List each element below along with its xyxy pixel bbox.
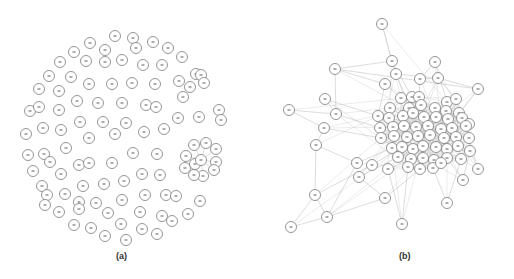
peripheral-node <box>322 212 333 223</box>
node <box>100 231 111 242</box>
node <box>127 78 138 89</box>
node <box>40 200 51 211</box>
peripheral-node <box>391 69 402 80</box>
node <box>199 78 210 89</box>
peripheral-node <box>380 193 391 204</box>
node <box>135 207 146 218</box>
core-node <box>373 111 384 122</box>
node <box>78 181 89 192</box>
cluster-node <box>211 144 222 155</box>
peripheral-node <box>377 19 388 30</box>
edge <box>315 145 316 195</box>
node <box>34 84 45 95</box>
core-node <box>439 133 450 144</box>
peripheral-node <box>433 73 444 84</box>
core-node <box>415 164 426 175</box>
peripheral-node <box>310 190 321 201</box>
core-node <box>436 158 447 169</box>
node <box>81 56 92 67</box>
node <box>119 176 130 187</box>
core-node <box>431 142 442 153</box>
node <box>60 189 71 200</box>
node <box>183 209 194 220</box>
edge <box>291 195 315 227</box>
core-node <box>465 146 476 157</box>
node <box>117 195 128 206</box>
node <box>28 166 39 177</box>
node <box>85 38 96 49</box>
node <box>69 220 80 231</box>
core-node <box>413 131 424 142</box>
node <box>75 117 86 128</box>
core-node <box>451 94 462 105</box>
node <box>107 158 118 169</box>
core-node <box>425 130 436 141</box>
edge <box>438 78 478 89</box>
node <box>214 105 225 116</box>
cluster-node <box>189 140 200 151</box>
node <box>56 169 67 180</box>
core-node <box>456 154 467 165</box>
peripheral-node <box>354 172 365 183</box>
node <box>42 190 53 201</box>
node <box>110 31 121 42</box>
core-node <box>431 112 442 123</box>
node <box>171 191 182 202</box>
core-node <box>453 141 464 152</box>
peripheral-node <box>473 84 484 95</box>
node <box>159 124 170 135</box>
peripheral-node <box>286 222 297 233</box>
node <box>131 43 142 54</box>
node <box>72 96 83 107</box>
core-node <box>399 121 410 132</box>
node <box>61 143 72 154</box>
peripheral-node <box>383 164 394 175</box>
node <box>107 79 118 90</box>
node <box>137 169 148 180</box>
node <box>177 52 188 63</box>
node <box>157 60 168 71</box>
node <box>148 37 159 48</box>
cluster-node <box>201 138 212 149</box>
node <box>157 211 168 222</box>
node <box>84 133 95 144</box>
core-node <box>408 108 419 119</box>
edge <box>324 128 381 138</box>
cluster-node <box>181 151 192 162</box>
peripheral-node <box>380 79 391 90</box>
node <box>99 179 110 190</box>
core-node <box>461 121 472 132</box>
node <box>121 235 132 246</box>
core-node <box>397 142 408 153</box>
node <box>216 115 227 126</box>
edge <box>335 69 385 84</box>
node <box>152 229 163 240</box>
node <box>116 219 127 230</box>
core-node <box>402 132 413 143</box>
core-node <box>385 103 396 114</box>
core-node <box>375 123 386 134</box>
node <box>121 118 132 129</box>
edge <box>335 69 478 89</box>
node <box>56 125 67 136</box>
panel-b-caption: (b) <box>399 251 411 261</box>
node <box>167 216 178 227</box>
node <box>23 150 34 161</box>
core-node <box>418 153 429 164</box>
node <box>54 207 65 218</box>
peripheral-node <box>442 198 453 209</box>
node <box>151 102 162 113</box>
node <box>45 157 56 168</box>
cluster-node <box>180 163 191 174</box>
edge <box>335 69 336 114</box>
peripheral-node <box>397 219 408 230</box>
node <box>141 100 152 111</box>
node <box>174 76 185 87</box>
peripheral-node <box>311 140 322 151</box>
hub-node <box>196 155 207 166</box>
peripheral-node <box>352 158 363 169</box>
node <box>195 196 206 207</box>
node <box>152 149 163 160</box>
node <box>185 82 196 93</box>
peripheral-node <box>430 57 441 68</box>
